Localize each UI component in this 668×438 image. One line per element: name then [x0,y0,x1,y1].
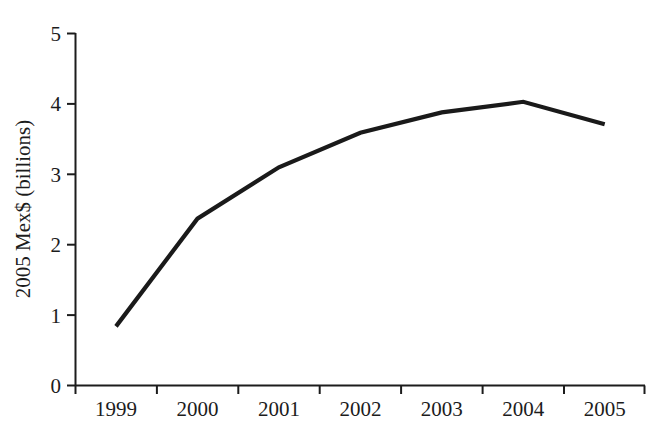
x-axis-ticks [76,386,645,395]
line-chart-figure: 0 1 2 3 4 5 2005 Mex$ (billions) [0,0,668,438]
y-tick-label-5: 5 [51,22,62,46]
x-tick-label-2002: 2002 [339,397,381,421]
y-axis-ticks [67,34,76,386]
y-tick-label-3: 3 [51,163,62,187]
x-axis-tick-labels: 1999 2000 2001 2002 2003 2004 2005 [95,397,626,421]
data-series-line [116,102,605,327]
y-tick-label-0: 0 [51,374,62,398]
y-tick-label-2: 2 [51,233,62,257]
plot-area [116,102,605,327]
y-tick-label-4: 4 [51,92,62,116]
x-tick-label-2004: 2004 [502,397,545,421]
y-axis-tick-labels: 0 1 2 3 4 5 [51,22,62,398]
y-axis-title: 2005 Mex$ (billions) [11,120,35,299]
x-tick-label-2005: 2005 [584,397,626,421]
x-tick-label-2001: 2001 [258,397,300,421]
x-tick-label-2000: 2000 [177,397,219,421]
y-axis-group: 0 1 2 3 4 5 2005 Mex$ (billions) [11,22,76,398]
x-axis-group: 1999 2000 2001 2002 2003 2004 2005 [75,386,645,422]
y-tick-label-1: 1 [51,304,62,328]
x-tick-label-2003: 2003 [421,397,463,421]
chart-canvas: 0 1 2 3 4 5 2005 Mex$ (billions) [0,0,668,438]
x-tick-label-1999: 1999 [95,397,137,421]
